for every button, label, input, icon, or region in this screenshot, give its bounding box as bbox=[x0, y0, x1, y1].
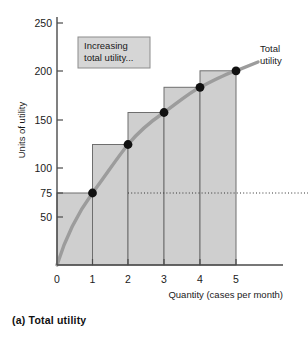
x-tick-label: 0 bbox=[54, 273, 60, 285]
y-tick-label: 75 bbox=[40, 187, 52, 199]
data-point bbox=[88, 189, 97, 198]
series-label-line-2: utility bbox=[260, 55, 282, 66]
x-tick-label: 1 bbox=[90, 273, 96, 285]
bar-3 bbox=[128, 113, 164, 266]
series-label-line-1: Total bbox=[260, 43, 280, 54]
data-point bbox=[232, 66, 241, 75]
data-point bbox=[124, 140, 133, 149]
x-axis-title: Quantity (cases per month) bbox=[168, 289, 283, 300]
series-label-total-utility: Total utility bbox=[260, 43, 282, 66]
chart-canvas: Units of utility bbox=[0, 0, 308, 308]
bar-group bbox=[57, 71, 236, 265]
x-tick-label: 4 bbox=[197, 273, 203, 285]
data-point bbox=[196, 83, 205, 92]
bar-5 bbox=[200, 71, 236, 265]
x-tick-label: 3 bbox=[161, 273, 167, 285]
y-tick-label: 250 bbox=[34, 17, 52, 29]
bar-4 bbox=[164, 87, 200, 265]
annotation-line-1: Increasing bbox=[84, 40, 128, 51]
figure-caption: (a) Total utility bbox=[12, 314, 86, 326]
x-tick-label: 2 bbox=[125, 273, 131, 285]
plot-area bbox=[57, 62, 308, 265]
y-axis-title: Units of utility bbox=[16, 102, 27, 159]
y-tick-label: 50 bbox=[40, 211, 52, 223]
y-tick-group bbox=[57, 23, 63, 217]
data-point bbox=[160, 108, 169, 117]
y-tick-label: 200 bbox=[34, 65, 52, 77]
y-tick-label: 150 bbox=[34, 114, 52, 126]
bar-2 bbox=[93, 145, 129, 266]
figure-total-utility: Units of utility bbox=[0, 0, 308, 344]
annotation-box: Increasing total utility... bbox=[78, 37, 150, 68]
y-tick-label: 100 bbox=[34, 162, 52, 174]
x-tick-label: 5 bbox=[233, 273, 239, 285]
annotation-line-2: total utility... bbox=[84, 52, 133, 63]
